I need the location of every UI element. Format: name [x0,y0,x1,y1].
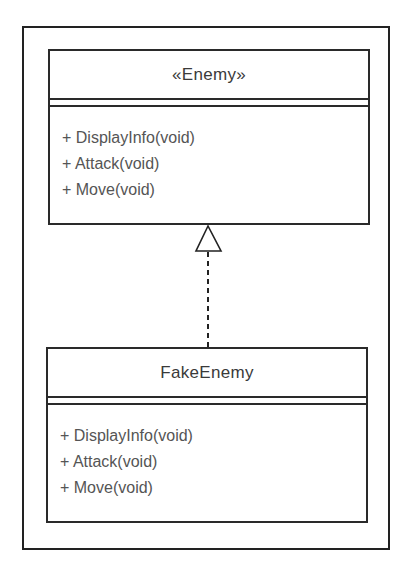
hollow-triangle-arrowhead-icon [196,226,221,251]
realization-connector [0,0,413,583]
